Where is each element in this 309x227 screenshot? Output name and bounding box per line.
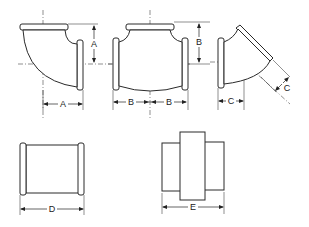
elbow-45-drawing: C C <box>210 25 292 110</box>
dim-label-a-vertical: A <box>91 39 97 49</box>
dim-label-b-right: B <box>166 97 172 107</box>
pipe-fittings-diagram: A A B B B <box>0 0 309 227</box>
dim-label-c-diagonal: C <box>284 83 291 93</box>
dim-label-e: E <box>190 202 196 212</box>
tee-drawing: B B B <box>108 10 210 118</box>
union-drawing: E <box>162 132 224 214</box>
dim-label-a-horizontal: A <box>60 99 66 109</box>
elbow-90-drawing: A A <box>18 10 112 120</box>
dim-label-d: D <box>49 204 56 214</box>
dim-label-b-vertical: B <box>196 37 202 47</box>
dim-label-c-horizontal: C <box>228 96 235 106</box>
dim-label-b-left: B <box>128 97 134 107</box>
coupling-drawing: D <box>20 143 84 215</box>
